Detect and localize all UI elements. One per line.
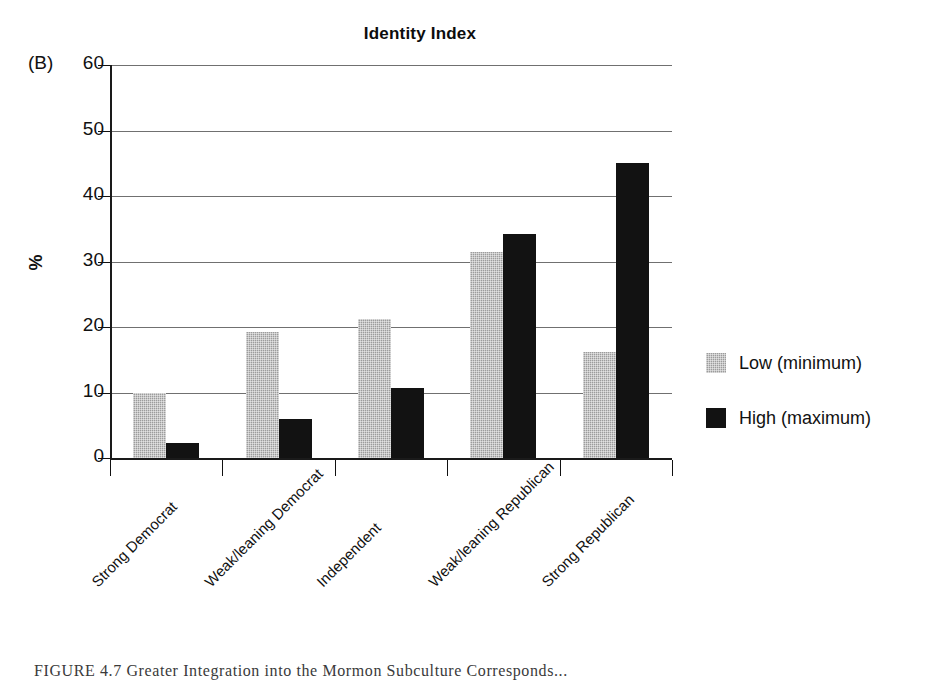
- bar-high-1: [279, 419, 312, 458]
- bar-high-0: [166, 443, 199, 458]
- chart-title: Identity Index: [300, 24, 540, 44]
- bar-high-3: [503, 234, 536, 458]
- y-axis-label: %: [26, 254, 47, 270]
- gridline-20: [110, 327, 672, 328]
- category-tick-4: [560, 460, 561, 476]
- y-tick-label-0: 0: [62, 445, 104, 467]
- y-tick-label-50: 50: [62, 118, 104, 140]
- category-tick-0: [110, 460, 111, 476]
- category-tick-3: [447, 460, 448, 476]
- y-tick-label-20: 20: [62, 314, 104, 336]
- legend-item-high: High (maximum): [706, 407, 871, 429]
- y-tick-label-60: 60: [62, 52, 104, 74]
- y-tick-label-40: 40: [62, 183, 104, 205]
- caption-figure-number: FIGURE 4.7: [34, 662, 122, 679]
- figure-panel-b: (B) Identity Index % 6050403020100 Stron…: [0, 0, 925, 686]
- legend-label-high: High (maximum): [739, 408, 871, 428]
- bar-high-2: [391, 388, 424, 458]
- legend-label-low: Low (minimum): [739, 353, 862, 373]
- y-tick-label-30: 30: [62, 249, 104, 271]
- category-tick-1: [222, 460, 223, 476]
- bar-low-2: [358, 319, 391, 459]
- gridline-40: [110, 196, 672, 197]
- category-label-0: Strong Democrat: [88, 498, 180, 590]
- chart-legend: Low (minimum)High (maximum): [706, 352, 871, 462]
- y-axis-line: [110, 65, 112, 459]
- x-axis-line: [110, 458, 672, 460]
- bar-low-3: [470, 252, 503, 458]
- y-tick-label-10: 10: [62, 380, 104, 402]
- caption-text: Greater Integration into the Mormon Subc…: [126, 662, 567, 679]
- category-tick-5: [672, 460, 673, 476]
- gridline-60: [110, 65, 672, 66]
- bar-low-0: [133, 393, 166, 459]
- bar-low-1: [246, 332, 279, 458]
- bar-high-4: [616, 163, 649, 458]
- gridline-50: [110, 131, 672, 132]
- category-label-1: Weak/leaning Democrat: [201, 465, 326, 590]
- category-tick-2: [335, 460, 336, 476]
- category-label-4: Strong Republican: [538, 491, 637, 590]
- bar-low-4: [583, 352, 616, 458]
- category-label-2: Independent: [313, 519, 384, 590]
- gridline-30: [110, 262, 672, 263]
- legend-item-low: Low (minimum): [706, 352, 871, 374]
- plot-area: [110, 65, 672, 458]
- panel-label: (B): [28, 52, 53, 74]
- legend-swatch-low-icon: [706, 353, 726, 373]
- category-label-3: Weak/leaning Republican: [425, 458, 557, 590]
- figure-caption: FIGURE 4.7 Greater Integration into the …: [34, 662, 894, 680]
- legend-swatch-high-icon: [706, 408, 726, 428]
